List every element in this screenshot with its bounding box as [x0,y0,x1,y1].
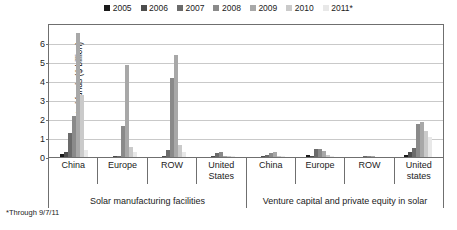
bar [80,95,84,158]
category-label: ROW [148,158,197,184]
chart-legend: 2005200620072008200920102011* [0,4,457,13]
legend-item-2011: 2011* [323,4,353,13]
legend-swatch-icon [286,5,292,11]
legend-item-2007: 2007 [177,4,204,13]
bar-groups [49,25,443,158]
category-label: Europe [98,158,147,184]
legend-swatch-icon [250,5,256,11]
section-label: Venture capital and private equity in so… [246,184,444,208]
legend-label: 2011* [331,4,353,13]
legend-swatch-icon [141,5,147,11]
legend-label: 2007 [186,4,205,13]
bar-group [394,25,443,158]
category-label: United States [197,158,246,184]
legend-label: 2010 [295,4,314,13]
legend-swatch-icon [177,5,183,11]
bar [125,65,129,158]
bar-group [295,25,344,158]
y-tick-label: 0 [40,153,45,163]
bar [174,55,178,158]
bar-group [148,25,197,158]
legend-item-2005: 2005 [104,4,131,13]
legend-swatch-icon [213,5,219,11]
y-tick-label: 1 [40,134,45,144]
category-label: ROW [345,158,394,184]
category-label-band: ChinaEuropeROWUnited StatesChinaEuropeRO… [48,158,444,184]
section-label: Solar manufacturing facilities [48,184,246,208]
plot-area: 0123456 Invested funds ($ billion) [48,24,444,158]
section-label-band: Solar manufacturing facilitiesVenture ca… [48,184,444,208]
legend-item-2010: 2010 [286,4,313,13]
y-tick-label: 3 [40,96,45,106]
y-tick-label: 5 [40,58,45,68]
category-label: China [247,158,296,184]
legend-swatch-icon [323,5,329,11]
bar-group [345,25,394,158]
y-tick-label: 2 [40,115,45,125]
bar-group [246,25,295,158]
chart-container: 2005200620072008200920102011* 0123456 In… [0,0,457,230]
y-tick-label: 6 [40,39,45,49]
legend-item-2009: 2009 [250,4,277,13]
bar-group [197,25,246,158]
legend-item-2008: 2008 [213,4,240,13]
category-label: Europe [296,158,345,184]
category-label: China [49,158,98,184]
legend-label: 2005 [113,4,132,13]
category-label: United states [395,158,443,184]
legend-item-2006: 2006 [141,4,168,13]
bar-group [49,25,98,158]
legend-label: 2008 [222,4,241,13]
bar-group [98,25,147,158]
legend-swatch-icon [104,5,110,11]
footnote: *Through 9/7/11 [6,208,59,217]
legend-label: 2009 [258,4,277,13]
bar [428,137,432,158]
legend-label: 2006 [149,4,168,13]
y-tick-label: 4 [40,77,45,87]
